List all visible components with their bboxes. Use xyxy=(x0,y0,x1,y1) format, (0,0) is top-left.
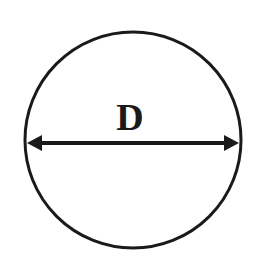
arrowhead-right-icon xyxy=(224,135,239,151)
diagram-canvas: D xyxy=(0,0,263,272)
arrowhead-left-icon xyxy=(27,135,42,151)
circle-outline xyxy=(25,32,241,248)
diameter-label: D xyxy=(113,98,147,136)
